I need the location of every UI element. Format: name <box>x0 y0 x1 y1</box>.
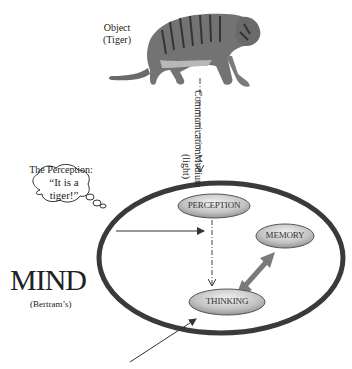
medium-line1: Communication <box>176 90 204 154</box>
memory-node-label: MEMORY <box>256 230 314 240</box>
medium-line2: Medium (light) <box>180 154 204 200</box>
perception-quote: “It is a tiger!” <box>38 176 90 202</box>
perception-quote-line1: “It is a <box>38 176 90 189</box>
object-label-line1: Object <box>92 22 142 34</box>
perception-quote-line2: tiger!” <box>38 189 90 202</box>
perception-node-label: PERCEPTION <box>178 200 250 210</box>
mind-subtitle: (Bertram’s) <box>30 299 71 309</box>
mind-title: MIND <box>10 265 86 295</box>
thinking-node-label: THINKING <box>189 296 265 306</box>
memory-thinking-double-arrow <box>236 252 275 296</box>
object-label-line2: (Tiger) <box>92 34 142 46</box>
medium-label: Communication Medium (light) <box>176 90 204 200</box>
object-label: Object (Tiger) <box>92 22 142 46</box>
perception-title: The Perception: <box>26 164 96 176</box>
